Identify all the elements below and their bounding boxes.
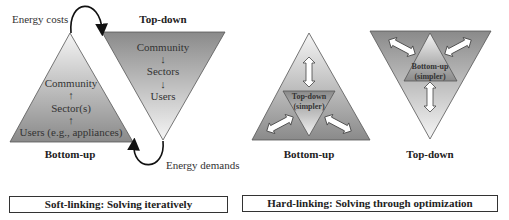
hard-linking-caption: Hard-linking: Solving through optimizati… (242, 195, 498, 212)
energy-demands-arrow (134, 141, 163, 165)
up-arrow-icon: ↑ (68, 90, 74, 101)
soft-top-down-title: Top-down (139, 14, 186, 25)
inner-bottom-up-label-line1: Bottom-up (412, 62, 449, 72)
down-arrow-icon: ↓ (160, 79, 166, 90)
energy-costs-label: Energy costs (12, 14, 68, 25)
soft-linking-caption: Soft-linking: Solving iteratively (9, 196, 228, 213)
inner-top-down-label-line2: (simpler) (293, 102, 324, 112)
up-arrow-icon: ↑ (68, 115, 74, 126)
bottom-up-level-community: Community (45, 78, 98, 89)
top-down-level-sectors: Sectors (147, 66, 179, 77)
bottom-up-level-users: Users (e.g., appliances) (20, 127, 123, 138)
inner-top-down-label-line1: Top-down (292, 92, 326, 102)
energy-costs-arrow (71, 6, 102, 33)
top-down-level-users: Users (150, 91, 175, 102)
down-arrow-icon: ↓ (160, 54, 166, 65)
bottom-up-level-sectors: Sector(s) (51, 103, 91, 114)
inner-bottom-up-label-line2: (simpler) (414, 72, 445, 82)
soft-bottom-up-title: Bottom-up (45, 149, 96, 160)
top-down-level-community: Community (137, 42, 190, 53)
hard-top-down-title: Top-down (406, 149, 453, 160)
energy-demands-label: Energy demands (166, 160, 239, 171)
hard-bottom-up-title: Bottom-up (284, 149, 335, 160)
